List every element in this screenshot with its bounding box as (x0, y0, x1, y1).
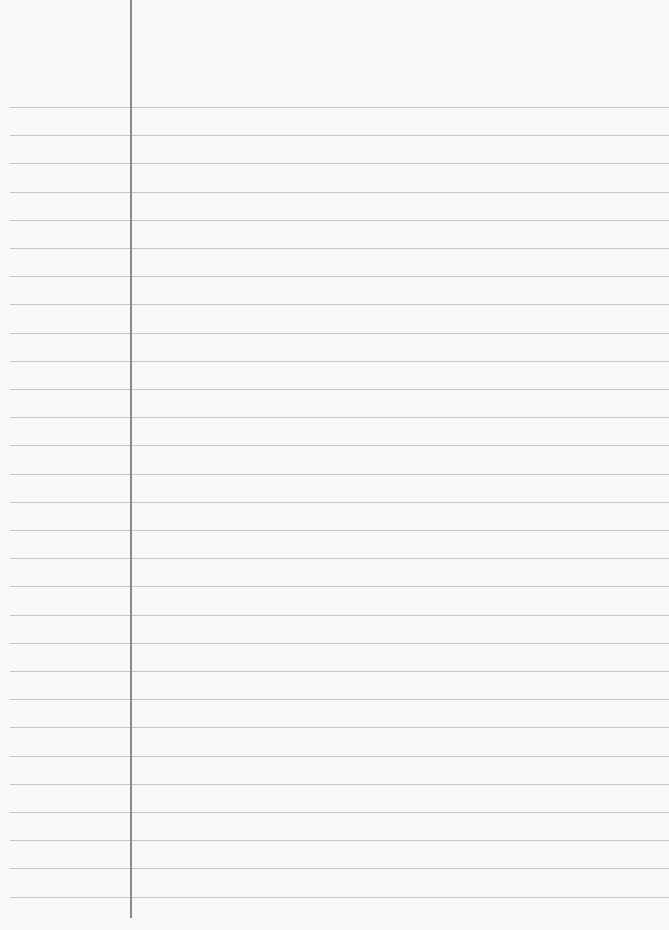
ruled-line (10, 248, 669, 249)
ruled-line (10, 727, 669, 728)
ruled-line (10, 643, 669, 644)
ruled-line (10, 812, 669, 813)
ruled-line (10, 192, 669, 193)
ruled-line (10, 276, 669, 277)
margin-line (130, 0, 132, 918)
ruled-line (10, 868, 669, 869)
ruled-line (10, 107, 669, 108)
ruled-line (10, 220, 669, 221)
ruled-line (10, 586, 669, 587)
ruled-line (10, 163, 669, 164)
ruled-line (10, 699, 669, 700)
ruled-line (10, 304, 669, 305)
ruled-line (10, 756, 669, 757)
ruled-line (10, 417, 669, 418)
ruled-line (10, 530, 669, 531)
ruled-line (10, 558, 669, 559)
lined-paper (0, 0, 669, 930)
ruled-line (10, 615, 669, 616)
ruled-line (10, 389, 669, 390)
ruled-line (10, 445, 669, 446)
ruled-line (10, 897, 669, 898)
ruled-line (10, 671, 669, 672)
ruled-line (10, 361, 669, 362)
ruled-line (10, 135, 669, 136)
ruled-line (10, 333, 669, 334)
ruled-line (10, 474, 669, 475)
ruled-line (10, 784, 669, 785)
ruled-line (10, 502, 669, 503)
ruled-line (10, 840, 669, 841)
